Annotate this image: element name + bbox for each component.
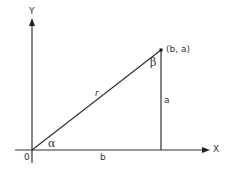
diagram-canvas: Y X 0 (b, a) r a b α β: [0, 0, 227, 177]
angle-beta-label: β: [150, 57, 156, 68]
triangle-diagram: [0, 0, 227, 177]
angle-alpha-label: α: [48, 138, 55, 149]
horizontal-side-label: b: [100, 153, 106, 162]
point-marker: [160, 49, 163, 52]
hypotenuse-label: r: [95, 89, 99, 98]
x-axis-label: X: [213, 145, 219, 154]
x-axis-arrow-icon: [202, 147, 210, 153]
point-label: (b, a): [166, 45, 190, 54]
vertical-side-label: a: [164, 96, 170, 105]
y-axis-arrow-icon: [29, 18, 35, 26]
y-axis-label: Y: [29, 7, 35, 16]
hypotenuse-line: [32, 50, 161, 150]
origin-label: 0: [24, 153, 30, 162]
